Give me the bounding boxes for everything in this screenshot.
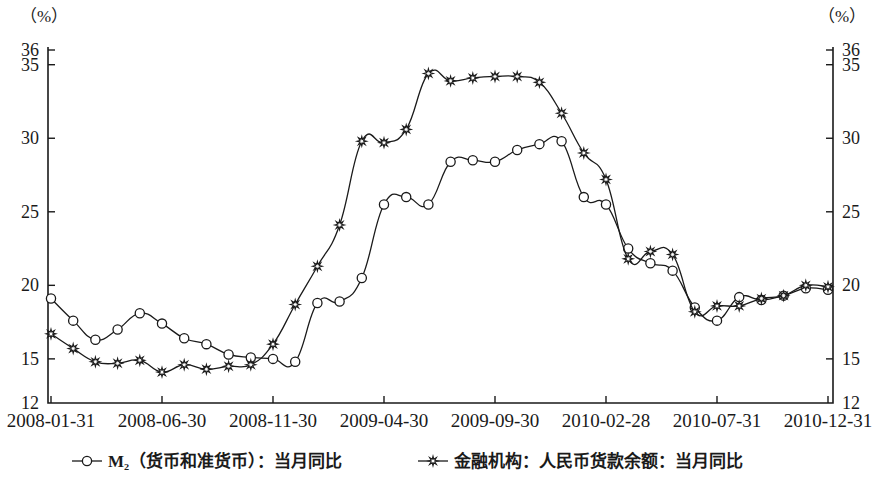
y-tick-label-left: 15 bbox=[21, 349, 39, 369]
y-tick-label-left: 20 bbox=[21, 275, 39, 295]
circle-marker bbox=[357, 273, 366, 282]
star-marker bbox=[823, 282, 833, 292]
star-marker bbox=[601, 175, 611, 185]
star-marker bbox=[712, 301, 722, 311]
star-marker bbox=[290, 300, 300, 310]
x-axis-ticks: 2008-01-312008-06-302008-11-302009-04-30… bbox=[7, 396, 873, 431]
star-marker bbox=[91, 357, 101, 367]
circle-marker bbox=[135, 309, 144, 318]
circle-marker bbox=[601, 200, 610, 209]
circle-marker bbox=[557, 137, 566, 146]
y-axis-left-ticks: 36353025201512 bbox=[21, 40, 55, 413]
x-tick-label: 2008-01-31 bbox=[7, 410, 96, 431]
y-tick-label-right: 15 bbox=[842, 349, 860, 369]
circle-marker bbox=[69, 316, 78, 325]
series-line bbox=[51, 136, 828, 366]
circle-marker bbox=[712, 316, 721, 325]
x-tick-label: 2010-12-31 bbox=[784, 410, 873, 431]
axes bbox=[48, 47, 833, 403]
star-marker bbox=[646, 247, 656, 257]
x-tick-label: 2010-02-28 bbox=[562, 410, 651, 431]
y-tick-label-left: 30 bbox=[21, 128, 39, 148]
circle-marker bbox=[224, 350, 233, 359]
legend-label: 金融机构：人民币货款余额：当月同比 bbox=[453, 451, 743, 471]
star-marker bbox=[512, 72, 522, 82]
star-marker bbox=[623, 254, 633, 264]
circle-marker bbox=[313, 298, 322, 307]
star-marker bbox=[202, 364, 212, 374]
circle-marker bbox=[535, 140, 544, 149]
x-tick-label: 2009-04-30 bbox=[340, 410, 429, 431]
star-marker bbox=[757, 294, 767, 304]
x-tick-label: 2009-09-30 bbox=[451, 410, 540, 431]
star-marker bbox=[424, 69, 434, 79]
star-marker bbox=[468, 73, 478, 83]
star-marker bbox=[157, 367, 167, 377]
x-tick-label: 2008-06-30 bbox=[118, 410, 207, 431]
circle-marker bbox=[82, 456, 91, 465]
y-tick-label-right: 30 bbox=[842, 128, 860, 148]
circle-marker bbox=[91, 335, 100, 344]
circle-marker bbox=[180, 334, 189, 343]
x-tick-label: 2008-11-30 bbox=[229, 410, 317, 431]
y-tick-label-right: 35 bbox=[842, 55, 860, 75]
star-marker bbox=[579, 148, 589, 158]
y-tick-label-left: 25 bbox=[21, 202, 39, 222]
star-marker bbox=[313, 261, 323, 271]
star-marker bbox=[246, 360, 256, 370]
series-1 bbox=[46, 136, 832, 366]
circle-marker bbox=[291, 357, 300, 366]
star-marker bbox=[801, 281, 811, 291]
x-tick-label: 2010-07-31 bbox=[673, 410, 762, 431]
chart-container: （%） （%） 36353025201512 36353025201512 20… bbox=[0, 0, 881, 478]
circle-marker bbox=[490, 157, 499, 166]
circle-marker bbox=[46, 294, 55, 303]
right-axis-unit-label: （%） bbox=[818, 7, 866, 26]
left-axis-unit-label: （%） bbox=[20, 7, 68, 26]
star-marker bbox=[779, 291, 789, 301]
star-marker bbox=[224, 361, 234, 371]
star-marker bbox=[490, 72, 500, 82]
circle-marker bbox=[446, 157, 455, 166]
legend-item-1: M₂（货币和准货币）：当月同比 bbox=[72, 451, 342, 471]
circle-marker bbox=[513, 145, 522, 154]
circle-marker bbox=[335, 297, 344, 306]
star-marker bbox=[46, 329, 56, 339]
circle-marker bbox=[268, 354, 277, 363]
circle-marker bbox=[157, 319, 166, 328]
data-series bbox=[46, 69, 833, 377]
y-tick-label-right: 20 bbox=[842, 275, 860, 295]
circle-marker bbox=[668, 266, 677, 275]
circle-marker bbox=[468, 156, 477, 165]
circle-marker bbox=[646, 259, 655, 268]
star-marker bbox=[734, 301, 744, 311]
star-marker bbox=[401, 125, 411, 135]
star-marker bbox=[357, 136, 367, 146]
line-chart: （%） （%） 36353025201512 36353025201512 20… bbox=[0, 0, 881, 478]
circle-marker bbox=[424, 200, 433, 209]
y-tick-label-left: 35 bbox=[21, 55, 39, 75]
star-marker bbox=[113, 358, 123, 368]
star-marker bbox=[68, 344, 78, 354]
circle-marker bbox=[402, 192, 411, 201]
circle-marker bbox=[202, 340, 211, 349]
series-2 bbox=[46, 69, 833, 377]
star-marker bbox=[135, 356, 145, 366]
star-marker bbox=[557, 108, 567, 118]
circle-marker bbox=[113, 325, 122, 334]
star-marker bbox=[379, 138, 389, 148]
star-marker bbox=[179, 360, 189, 370]
y-axis-right-ticks: 36353025201512 bbox=[826, 40, 860, 413]
legend-item-2: 金融机构：人民币货款余额：当月同比 bbox=[418, 451, 743, 471]
star-marker bbox=[535, 78, 545, 88]
circle-marker bbox=[379, 200, 388, 209]
star-marker bbox=[428, 456, 438, 466]
star-marker bbox=[446, 76, 456, 86]
circle-marker bbox=[579, 192, 588, 201]
star-marker bbox=[268, 339, 278, 349]
legend-label: M₂（货币和准货币）：当月同比 bbox=[108, 451, 342, 471]
star-marker bbox=[690, 307, 700, 317]
chart-legend: M₂（货币和准货币）：当月同比金融机构：人民币货款余额：当月同比 bbox=[72, 451, 743, 471]
star-marker bbox=[668, 250, 678, 260]
star-marker bbox=[335, 220, 345, 230]
